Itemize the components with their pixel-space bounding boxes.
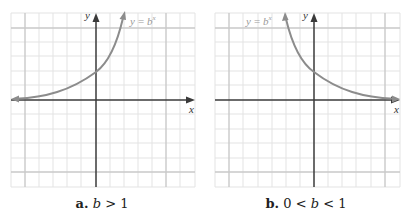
curve-arrow-up-icon bbox=[120, 11, 127, 20]
y-axis-label: y bbox=[302, 9, 308, 21]
y-axis-label: y bbox=[84, 9, 90, 21]
curve-arrow-left-icon bbox=[11, 96, 19, 103]
graph-panel-b: y x y=bx b. 0 < b < 1 bbox=[204, 0, 408, 218]
axes-a bbox=[11, 20, 188, 187]
x-axis-label: x bbox=[188, 103, 194, 115]
axes-b bbox=[215, 20, 393, 187]
graph-a-plot: y x y=bx bbox=[0, 0, 204, 195]
graph-panel-a: y x y=bx a. b > 1 bbox=[0, 0, 204, 218]
graph-b-plot: y x y=bx bbox=[204, 0, 408, 195]
exponential-decay-curve bbox=[286, 19, 394, 99]
exponential-growth-curve bbox=[16, 18, 123, 99]
x-axis-label: x bbox=[393, 103, 399, 115]
caption-b: b. 0 < b < 1 bbox=[204, 196, 408, 211]
y-axis-arrow-icon bbox=[311, 13, 318, 22]
curve-label: y=bx bbox=[245, 14, 273, 27]
y-axis-arrow-icon bbox=[93, 13, 100, 22]
caption-a: a. b > 1 bbox=[0, 196, 204, 211]
curve-label: y=bx bbox=[129, 14, 157, 27]
